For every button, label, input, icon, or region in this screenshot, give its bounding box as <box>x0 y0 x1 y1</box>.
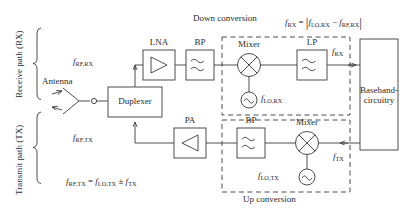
signal-label-f-rf-tx: fRF,TX <box>73 133 93 142</box>
mixer-tx-label: Mixer <box>285 117 329 127</box>
antenna-connector-node <box>91 98 96 103</box>
brace-receive-path <box>33 28 41 100</box>
baseband-line-2: circuitry <box>364 95 395 105</box>
signal-label-f-rf-rx: fRF,RX <box>73 57 93 66</box>
receive-path-label: Receive path (RX) <box>14 31 24 98</box>
brace-transmit-path <box>33 112 41 184</box>
lna-label: LNA <box>143 37 175 47</box>
equation-rx: fRX = |fLO,RX − fRF,RX| <box>285 14 362 28</box>
f-tx-sub: TX <box>336 155 344 162</box>
lp-rx-box <box>297 50 327 80</box>
bp-tx-box <box>237 128 265 158</box>
signal-label-f-lo-rx: fLO,RX <box>261 94 282 103</box>
signal-label-f-rx: fRX <box>332 47 343 56</box>
diagram-svg <box>0 0 402 215</box>
pa-box <box>174 128 206 158</box>
transmit-path-label: Transmit path (TX) <box>14 125 24 195</box>
equation-tx: fRF,TX = fLO,TX ± fTX <box>66 177 137 186</box>
signal-label-f-lo-tx: fLO,TX <box>258 171 279 180</box>
lp-rx-label: LP <box>297 37 327 47</box>
f-lo-tx-sub: LO,TX <box>261 174 279 181</box>
pa-label: PA <box>174 115 206 125</box>
bp-rx-label: BP <box>186 37 214 47</box>
up-conversion-label: Up conversion <box>243 195 296 204</box>
baseband-circuitry-label: Baseband- circuitry <box>360 85 398 106</box>
figure-canvas: Receive path (RX) Transmit path (TX) Ant… <box>0 0 402 215</box>
f-lo-rx-sub: LO,RX <box>264 97 283 104</box>
baseband-line-1: Baseband- <box>360 85 398 95</box>
f-rf-tx-sub: RF,TX <box>76 136 93 143</box>
duplexer-label: Duplexer <box>108 96 162 106</box>
f-rx-sub: RX <box>335 50 344 57</box>
bp-rx-box <box>186 50 214 80</box>
lo-rx-circle <box>241 92 257 108</box>
lna-box <box>143 50 175 80</box>
f-rf-rx-sub: RF,RX <box>76 60 94 67</box>
mixer-rx-label: Mixer <box>227 39 271 49</box>
lo-tx-circle <box>299 169 315 185</box>
antenna-symbol <box>52 88 90 114</box>
antenna-label: Antenna <box>42 77 73 86</box>
down-conversion-label: Down conversion <box>193 14 257 23</box>
signal-label-f-tx: fTX <box>333 152 344 161</box>
bp-tx-label: BP <box>237 115 265 125</box>
